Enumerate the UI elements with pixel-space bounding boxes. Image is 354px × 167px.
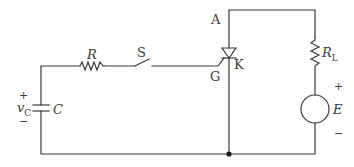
load-resistor-symbol <box>311 37 319 95</box>
capacitor-c-label: C <box>53 103 63 116</box>
gate-wire <box>152 58 224 66</box>
thyristor-anode-label: A <box>211 13 220 26</box>
switch-s-symbol <box>135 59 149 66</box>
source-e-label: E <box>333 103 343 116</box>
capacitor-symbol <box>33 105 49 111</box>
load-resistor-label: RL <box>322 46 338 61</box>
thyristor-gate-label: G <box>210 70 220 83</box>
source-minus-sign: − <box>334 127 343 140</box>
thyristor-cathode-label: K <box>234 58 244 71</box>
resistor-r-label: R <box>87 48 97 61</box>
source-plus-sign: + <box>334 80 343 93</box>
circuit-diagram: R S + vC − C A K G RL + E − <box>0 0 354 167</box>
switch-s-label: S <box>137 46 146 59</box>
voltage-source-symbol <box>301 95 329 123</box>
left-loop-wires <box>41 66 315 154</box>
junction-node <box>226 151 231 156</box>
capacitor-voltage-label: vC <box>17 101 31 116</box>
circuit-schematic <box>0 0 354 167</box>
capacitor-minus-sign: − <box>19 115 28 128</box>
resistor-r-symbol <box>80 62 104 70</box>
thyristor-symbol <box>222 10 315 154</box>
